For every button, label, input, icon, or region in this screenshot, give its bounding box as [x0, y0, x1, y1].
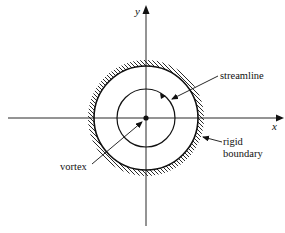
rigid-boundary-label-line1: rigid — [223, 136, 244, 147]
rigid-boundary-label-line2: boundary — [223, 148, 263, 159]
rigid-boundary-hatching — [60, 0, 240, 233]
y-axis-label: y — [134, 5, 140, 17]
vortex-label: vortex — [60, 161, 88, 172]
vortex-diagram: x y — [0, 0, 285, 233]
x-axis-label: x — [271, 120, 277, 132]
vortex-point — [143, 115, 148, 120]
x-axis-arrow-icon — [276, 115, 284, 122]
rigid-boundary-leader-arrow — [203, 137, 222, 142]
streamline-label: streamline — [220, 70, 264, 81]
y-axis-arrow-icon — [143, 5, 150, 14]
